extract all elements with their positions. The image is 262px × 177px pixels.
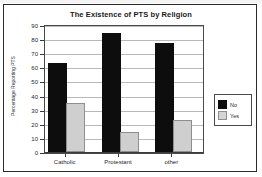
x-axis-tick-label: other: [141, 159, 201, 165]
y-axis-tick-label: 0: [18, 150, 38, 156]
legend-swatch-yes-icon: [218, 111, 227, 120]
y-axis-tick-label: 90: [18, 23, 38, 29]
bar-yes-catholic: [66, 103, 85, 152]
bar-no-other: [155, 43, 174, 152]
chart-legend: No Yes: [214, 94, 252, 126]
y-axis-tick-label: 30: [18, 108, 38, 114]
chart-title: The Existence of PTS by Religion: [4, 10, 258, 19]
x-axis-tick-mark: [118, 154, 119, 157]
y-axis-tick-label: 80: [18, 37, 38, 43]
y-axis-tick-label: 40: [18, 94, 38, 100]
bar-no-protestant: [102, 33, 121, 152]
bar-group: [48, 25, 83, 152]
legend-item-yes: Yes: [218, 111, 249, 120]
y-axis-tick-label: 20: [18, 122, 38, 128]
y-axis-tick-label: 70: [18, 51, 38, 57]
bar-yes-protestant: [120, 132, 139, 152]
x-axis-tick-label: Protestant: [88, 159, 148, 165]
bar-no-catholic: [48, 63, 67, 152]
plot-area: [44, 25, 204, 154]
y-axis-label: Percentage Reporting PTS: [10, 46, 16, 126]
legend-label-no: No: [230, 102, 237, 108]
x-axis-tick-mark: [65, 154, 66, 157]
bar-group: [102, 25, 137, 152]
scan-edge: [0, 0, 262, 3]
y-axis-tick-label: 60: [18, 65, 38, 71]
axis-baseline: [45, 152, 203, 153]
legend-label-yes: Yes: [230, 113, 239, 119]
legend-item-no: No: [218, 100, 249, 109]
chart-figure-frame: The Existence of PTS by Religion Percent…: [3, 4, 257, 172]
y-axis-tick-label: 50: [18, 79, 38, 85]
x-axis-tick-mark: [171, 154, 172, 157]
bar-group: [155, 25, 190, 152]
legend-swatch-no-icon: [218, 100, 227, 109]
y-axis-tick-label: 10: [18, 136, 38, 142]
x-axis-tick-label: Catholic: [35, 159, 95, 165]
bar-yes-other: [173, 120, 192, 152]
